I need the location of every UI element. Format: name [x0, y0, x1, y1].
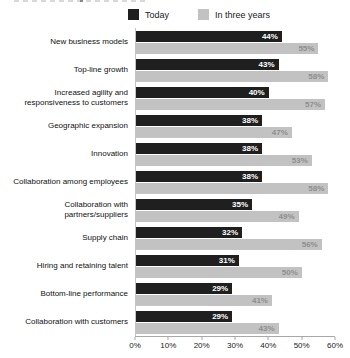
- bar-value-label: 44%: [262, 32, 278, 41]
- category-label: Bottom-line performance: [0, 289, 135, 299]
- chart-row: Top-line growth43%58%: [0, 56, 350, 84]
- bar-group: 35%49%: [135, 196, 335, 224]
- bar-value-label: 41%: [252, 296, 268, 305]
- bar-value-label: 49%: [279, 212, 295, 221]
- chart-row: Collaboration among employees38%58%: [0, 168, 350, 196]
- bar-today: 38%: [136, 115, 262, 126]
- bar-in-three-years: 41%: [136, 295, 272, 306]
- axis-tickmark: [301, 337, 302, 340]
- chart-row: Geographic expansion38%47%: [0, 112, 350, 140]
- bar-today: 31%: [136, 255, 239, 266]
- bar-in-three-years: 49%: [136, 211, 299, 222]
- bar-in-three-years: 53%: [136, 155, 312, 166]
- category-label: Supply chain: [0, 233, 135, 243]
- bar-value-label: 55%: [298, 44, 314, 53]
- legend-item-today: Today: [128, 9, 169, 20]
- axis-tickmark: [201, 337, 202, 340]
- plot-area: New business models44%55%Top-line growth…: [0, 28, 350, 336]
- bar-chart: TodayIn three years New business models4…: [0, 0, 350, 358]
- axis-tick-label: 60%: [327, 341, 343, 350]
- cropped-text-fragment: [14, 0, 146, 2]
- bar-in-three-years: 55%: [136, 43, 318, 54]
- bar-group: 38%47%: [135, 112, 335, 140]
- bar-value-label: 43%: [259, 324, 275, 333]
- bar-in-three-years: 56%: [136, 239, 322, 250]
- chart-legend: TodayIn three years: [128, 9, 270, 20]
- bar-value-label: 38%: [242, 116, 258, 125]
- bar-value-label: 31%: [219, 256, 235, 265]
- bar-today: 38%: [136, 171, 262, 182]
- category-label: Geographic expansion: [0, 121, 135, 131]
- bar-group: 32%56%: [135, 224, 335, 252]
- bar-value-label: 58%: [308, 184, 324, 193]
- axis-tick-label: 0%: [129, 341, 141, 350]
- bar-value-label: 56%: [302, 240, 318, 249]
- category-label: Top-line growth: [0, 65, 135, 75]
- bar-today: 40%: [136, 87, 269, 98]
- chart-row: Hiring and retaining talent31%50%: [0, 252, 350, 280]
- category-label: Collaboration with customers: [0, 317, 135, 327]
- x-axis: 0%10%20%30%40%50%60%: [135, 336, 335, 353]
- chart-row: Increased agility and responsiveness to …: [0, 84, 350, 112]
- bar-value-label: 29%: [212, 284, 228, 293]
- bar-group: 40%57%: [135, 84, 335, 112]
- bar-value-label: 32%: [222, 228, 238, 237]
- chart-row: Innovation38%53%: [0, 140, 350, 168]
- category-label: Collaboration among employees: [0, 177, 135, 187]
- legend-swatch-icon: [128, 9, 139, 20]
- chart-row: New business models44%55%: [0, 28, 350, 56]
- bar-group: 29%43%: [135, 308, 335, 336]
- bar-in-three-years: 47%: [136, 127, 292, 138]
- bar-group: 38%58%: [135, 168, 335, 196]
- legend-label: Today: [145, 10, 169, 20]
- bar-group: 38%53%: [135, 140, 335, 168]
- category-label: New business models: [0, 37, 135, 47]
- axis-tickmark: [335, 337, 336, 340]
- bar-value-label: 29%: [212, 312, 228, 321]
- chart-row: Collaboration with partners/suppliers35%…: [0, 196, 350, 224]
- bar-today: 35%: [136, 199, 252, 210]
- bar-today: 29%: [136, 283, 232, 294]
- bar-value-label: 57%: [305, 100, 321, 109]
- axis-tick-label: 20%: [194, 341, 210, 350]
- axis-tick-label: 30%: [227, 341, 243, 350]
- bar-today: 44%: [136, 31, 282, 42]
- bar-value-label: 47%: [272, 128, 288, 137]
- bar-value-label: 35%: [232, 200, 248, 209]
- bar-value-label: 50%: [282, 268, 298, 277]
- category-label: Increased agility and responsiveness to …: [0, 88, 135, 107]
- category-label: Collaboration with partners/suppliers: [0, 200, 135, 219]
- bar-value-label: 38%: [242, 172, 258, 181]
- chart-row: Supply chain32%56%: [0, 224, 350, 252]
- bar-in-three-years: 43%: [136, 323, 279, 334]
- category-label: Hiring and retaining talent: [0, 261, 135, 271]
- axis-tickmark: [168, 337, 169, 340]
- legend-label: In three years: [215, 10, 270, 20]
- axis-tick-label: 10%: [160, 341, 176, 350]
- axis-tickmark: [135, 337, 136, 340]
- bar-in-three-years: 58%: [136, 183, 328, 194]
- bar-value-label: 38%: [242, 144, 258, 153]
- bar-value-label: 53%: [292, 156, 308, 165]
- bar-value-label: 58%: [308, 72, 324, 81]
- bar-group: 31%50%: [135, 252, 335, 280]
- axis-tick-label: 40%: [260, 341, 276, 350]
- bar-in-three-years: 50%: [136, 267, 302, 278]
- bar-today: 38%: [136, 143, 262, 154]
- bar-in-three-years: 58%: [136, 71, 328, 82]
- chart-row: Collaboration with customers29%43%: [0, 308, 350, 336]
- category-label: Innovation: [0, 149, 135, 159]
- bar-group: 29%41%: [135, 280, 335, 308]
- legend-swatch-icon: [198, 9, 209, 20]
- bar-in-three-years: 57%: [136, 99, 325, 110]
- bar-group: 43%58%: [135, 56, 335, 84]
- bar-group: 44%55%: [135, 28, 335, 56]
- axis-tick-label: 50%: [294, 341, 310, 350]
- bar-today: 43%: [136, 59, 279, 70]
- axis-tickmark: [235, 337, 236, 340]
- legend-item-in-three-years: In three years: [198, 9, 270, 20]
- axis-tickmark: [268, 337, 269, 340]
- bar-today: 29%: [136, 311, 232, 322]
- bar-value-label: 40%: [249, 88, 265, 97]
- chart-row: Bottom-line performance29%41%: [0, 280, 350, 308]
